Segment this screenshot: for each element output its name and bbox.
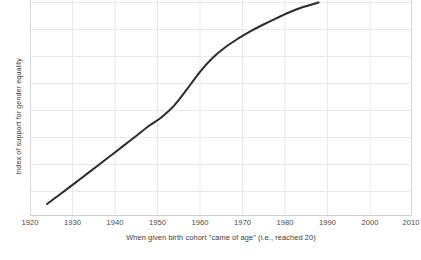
x-tick-1960: 1960 [192,218,209,227]
chart-figure: Index of support for gender equality 192… [0,0,421,260]
x-axis-tick-labels: 1920 1930 1940 1950 1960 1970 1980 1990 … [0,218,421,232]
x-tick-2000: 2000 [362,218,379,227]
plot-background [30,0,412,215]
x-axis-label: When given birth cohort "came of age" (i… [30,233,412,242]
x-tick-2010: 2010 [403,218,420,227]
x-tick-1940: 1940 [107,218,124,227]
x-tick-1950: 1950 [149,218,166,227]
x-tick-1930: 1930 [64,218,81,227]
x-tick-1990: 1990 [319,218,336,227]
x-tick-1970: 1970 [234,218,251,227]
x-tick-1980: 1980 [277,218,294,227]
x-tick-1920: 1920 [22,218,39,227]
y-axis-label: Index of support for gender equality [14,37,23,197]
